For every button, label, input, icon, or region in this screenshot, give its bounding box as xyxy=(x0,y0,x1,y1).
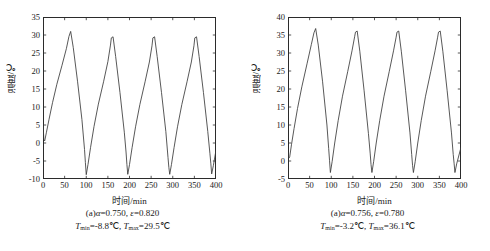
tmax-subscript: max xyxy=(129,225,139,231)
x-tick-label: 100 xyxy=(80,181,93,190)
x-axis-label-right: 时间/min xyxy=(288,194,461,207)
y-tick-label: 20 xyxy=(32,67,41,76)
y-tick-label: 40 xyxy=(277,13,286,22)
tmin-value: =-3.2℃, xyxy=(335,221,369,231)
temperature-curve-right xyxy=(288,17,461,179)
x-tick-labels-right: 0 50 100 150 200 250 300 350 400 xyxy=(288,181,461,193)
y-tick-label: 10 xyxy=(32,103,41,112)
caption-line-2-left: Tmin=-8.8℃, Tmax=29.5℃ xyxy=(0,220,245,235)
tmin-subscript: min xyxy=(80,225,89,231)
alpha-value: =0.756, xyxy=(346,208,376,218)
y-tick-label: 5 xyxy=(36,121,40,130)
x-tick-label: 0 xyxy=(41,181,45,190)
chart-panel-right: 温度/℃ 40 35 30 25 20 15 10 5 0 -5 0 50 10… xyxy=(245,0,490,251)
epsilon-value: =0.820 xyxy=(134,208,159,218)
x-tick-labels-left: 0 50 100 150 200 250 300 350 400 xyxy=(43,181,216,193)
caption-left: (a)α=0.750, ε=0.820 Tmin=-8.8℃, Tmax=29.… xyxy=(0,207,245,235)
y-tick-label: -10 xyxy=(29,175,40,184)
y-tick-label: -5 xyxy=(278,175,285,184)
x-tick-label: 250 xyxy=(145,181,158,190)
y-tick-label: 15 xyxy=(32,85,41,94)
x-tick-label: 150 xyxy=(347,181,360,190)
y-tick-label: 5 xyxy=(281,139,285,148)
y-tick-label: 0 xyxy=(36,139,40,148)
caption-line-2-right: Tmin=-3.2℃, Tmax=36.1℃ xyxy=(245,220,490,235)
caption-line-1-left: (a)α=0.750, ε=0.820 xyxy=(0,207,245,220)
x-tick-label: 400 xyxy=(210,181,223,190)
y-tick-label: 35 xyxy=(277,31,286,40)
y-tick-label: 10 xyxy=(277,121,286,130)
tmin-value: =-8.8℃, xyxy=(90,221,124,231)
epsilon-value: =0.780 xyxy=(379,208,404,218)
x-tick-label: 400 xyxy=(455,181,468,190)
figure-container: 温度/℃ 35 30 25 20 15 10 5 0 -5 -10 0 50 1… xyxy=(0,0,490,251)
y-tick-label: 30 xyxy=(277,49,286,58)
y-tick-label: -5 xyxy=(33,157,40,166)
plot-area-left xyxy=(43,17,216,179)
x-tick-label: 350 xyxy=(188,181,201,190)
x-tick-label: 0 xyxy=(286,181,290,190)
tmax-subscript: max xyxy=(374,225,384,231)
x-tick-label: 250 xyxy=(390,181,403,190)
plot-area-right xyxy=(288,17,461,179)
x-tick-label: 200 xyxy=(123,181,136,190)
y-tick-label: 25 xyxy=(277,67,286,76)
temperature-curve-left xyxy=(43,17,216,179)
caption-line-1-right: (a)α=0.756, ε=0.780 xyxy=(245,207,490,220)
y-tick-label: 30 xyxy=(32,31,41,40)
x-axis-label-left: 时间/min xyxy=(43,194,216,207)
x-tick-label: 100 xyxy=(325,181,338,190)
x-tick-label: 350 xyxy=(433,181,446,190)
x-tick-label: 50 xyxy=(305,181,314,190)
y-tick-labels-left: 35 30 25 20 15 10 5 0 -5 -10 xyxy=(20,17,40,179)
tmax-value: =36.1℃ xyxy=(384,221,415,231)
chart-panel-left: 温度/℃ 35 30 25 20 15 10 5 0 -5 -10 0 50 1… xyxy=(0,0,245,251)
y-tick-label: 0 xyxy=(281,157,285,166)
x-tick-label: 50 xyxy=(60,181,69,190)
y-tick-label: 25 xyxy=(32,49,41,58)
caption-prefix: (a) xyxy=(86,208,96,218)
x-tick-label: 300 xyxy=(166,181,179,190)
y-tick-label: 35 xyxy=(32,13,41,22)
y-tick-labels-right: 40 35 30 25 20 15 10 5 0 -5 xyxy=(265,17,285,179)
y-axis-label-right: 温度/℃ xyxy=(251,62,265,93)
tmax-value: =29.5℃ xyxy=(139,221,170,231)
caption-prefix: (a) xyxy=(331,208,341,218)
x-tick-label: 200 xyxy=(368,181,381,190)
alpha-value: =0.750, xyxy=(101,208,131,218)
x-tick-label: 300 xyxy=(411,181,424,190)
x-tick-label: 150 xyxy=(102,181,115,190)
y-tick-label: 15 xyxy=(277,103,286,112)
tmin-subscript: min xyxy=(325,225,334,231)
caption-right: (a)α=0.756, ε=0.780 Tmin=-3.2℃, Tmax=36.… xyxy=(245,207,490,235)
y-axis-label-left: 温度/℃ xyxy=(6,62,20,93)
y-tick-label: 20 xyxy=(277,85,286,94)
